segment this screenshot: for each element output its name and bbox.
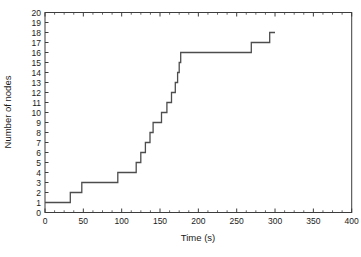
figure: Time (s) Number of nodes 050100150200250… <box>0 0 361 257</box>
x-tick-label: 300 <box>268 216 282 226</box>
y-tick-label: 10 <box>32 108 42 118</box>
y-tick-label: 15 <box>32 58 42 68</box>
x-tick-label: 250 <box>230 216 244 226</box>
y-tick-label: 0 <box>36 208 41 218</box>
y-tick-label: 7 <box>36 138 41 148</box>
x-tick-label: 100 <box>115 216 129 226</box>
x-tick-label: 350 <box>306 216 320 226</box>
y-tick-label: 13 <box>32 78 42 88</box>
y-tick-label: 1 <box>36 198 41 208</box>
y-tick-label: 5 <box>36 158 41 168</box>
y-tick-label: 20 <box>32 8 42 18</box>
x-tick-label: 200 <box>191 216 205 226</box>
y-tick-label: 9 <box>36 118 41 128</box>
y-tick-label: 17 <box>32 38 42 48</box>
y-tick-label: 12 <box>32 88 42 98</box>
y-tick-label: 8 <box>36 128 41 138</box>
x-axis-title: Time (s) <box>181 232 215 243</box>
nodes-step-line <box>45 33 275 203</box>
y-tick-label: 18 <box>32 28 42 38</box>
y-tick-label: 6 <box>36 148 41 158</box>
step-chart: Time (s) Number of nodes 050100150200250… <box>0 0 361 257</box>
y-tick-label: 4 <box>36 168 41 178</box>
y-tick-label: 11 <box>32 98 41 108</box>
y-axis-title: Number of nodes <box>2 75 13 148</box>
y-tick-label: 14 <box>32 68 42 78</box>
x-tick-label: 50 <box>79 216 89 226</box>
y-tick-label: 19 <box>32 18 42 28</box>
x-tick-label: 150 <box>153 216 167 226</box>
y-tick-label: 16 <box>32 48 42 58</box>
x-tick-label: 0 <box>43 216 48 226</box>
y-tick-label: 2 <box>36 188 41 198</box>
y-tick-label: 3 <box>36 178 41 188</box>
x-tick-label: 400 <box>345 216 359 226</box>
